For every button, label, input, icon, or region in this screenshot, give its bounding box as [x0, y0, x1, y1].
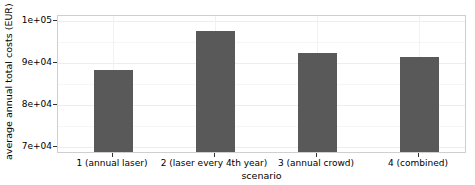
x-tick-label-4: 4 (combined) — [388, 158, 448, 169]
gridline-major-1e05 — [58, 21, 465, 22]
gridline-minor-95000 — [58, 42, 465, 43]
x-tick-label-2: 2 (laser every 4th year) — [161, 158, 268, 169]
y-axis-tick-labels: 1e+05 9e+04 8e+04 7e+04 — [12, 0, 52, 185]
x-tick-mark-1 — [112, 153, 113, 157]
bar-scenario-3 — [298, 53, 337, 152]
y-tick-mark-7e04 — [53, 146, 57, 147]
x-axis-title: scenario — [57, 170, 466, 182]
y-tick-label-7e04: 7e+04 — [10, 141, 52, 151]
y-tick-label-8e04: 8e+04 — [10, 99, 52, 109]
y-tick-mark-8e04 — [53, 104, 57, 105]
x-tick-mark-2 — [214, 153, 215, 157]
y-tick-label-1e05: 1e+05 — [10, 15, 52, 25]
bar-scenario-1 — [94, 70, 133, 152]
plot-panel — [57, 15, 466, 153]
bar-scenario-4 — [400, 57, 439, 152]
y-tick-mark-1e05 — [53, 20, 57, 21]
x-tick-label-1: 1 (annual laser) — [76, 158, 147, 169]
y-tick-label-9e04: 9e+04 — [10, 57, 52, 67]
y-tick-mark-9e04 — [53, 62, 57, 63]
x-tick-mark-4 — [418, 153, 419, 157]
bar-chart: average annual total costs (EUR) 1e+05 9… — [0, 0, 475, 185]
x-tick-mark-3 — [316, 153, 317, 157]
x-tick-label-3: 3 (annual crowd) — [278, 158, 354, 169]
bar-scenario-2 — [196, 31, 235, 152]
